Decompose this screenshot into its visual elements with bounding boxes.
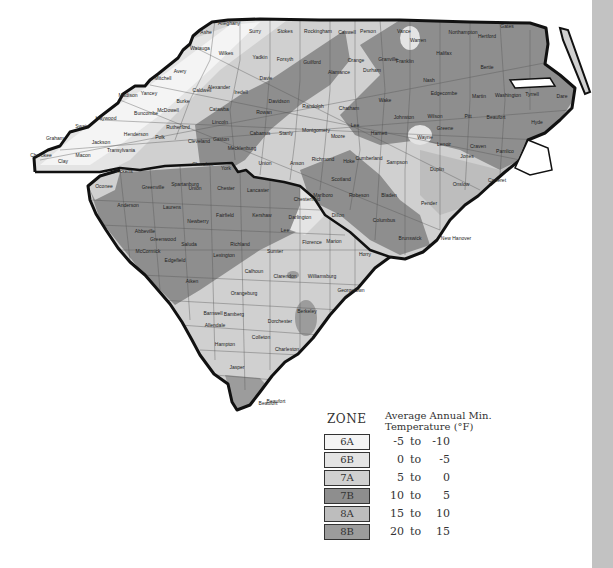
nc-county-label: Harnett xyxy=(371,130,388,136)
nc-county-label: Mecklenburg xyxy=(228,145,257,151)
nc-county-label: Durham xyxy=(363,67,381,73)
nc-county-label: Avery xyxy=(174,68,187,74)
nc-county-label: Yancey xyxy=(141,90,158,96)
nc-county-label: Buncombe xyxy=(134,110,158,116)
legend-range-to: to xyxy=(410,434,421,450)
legend-zone-swatch-8a: 8A xyxy=(324,506,370,522)
nc-county-label: Carteret xyxy=(488,177,507,183)
nc-county-label: Chatham xyxy=(339,105,359,111)
legend-temp-title-line2: Temperature (°F) xyxy=(385,421,492,432)
nc-county-label: Clay xyxy=(58,158,69,164)
nc-county-label: Wake xyxy=(379,97,392,103)
nc-county-label: Anson xyxy=(290,160,304,166)
nc-county-label: New Hanover xyxy=(441,235,472,241)
nc-county-label: Cumberland xyxy=(355,155,382,161)
sc-county-label: Colleton xyxy=(252,334,271,340)
nc-county-label: Craven xyxy=(470,143,486,149)
legend-temp-range: 5to0 xyxy=(382,470,472,486)
nc-county-label: Alamance xyxy=(328,69,350,75)
nc-county-label: Graham xyxy=(46,135,64,141)
legend-range-to: to xyxy=(410,452,421,468)
sc-county-label: Calhoun xyxy=(245,268,264,274)
nc-county-label: Polk xyxy=(155,134,165,140)
sc-county-label: Marion xyxy=(326,238,342,244)
legend-zone-title: ZONE xyxy=(327,412,366,426)
legend-range-low: 5 xyxy=(382,470,404,486)
nc-county-label: Stokes xyxy=(277,28,293,34)
nc-county-label: Duplin xyxy=(430,166,444,172)
nc-county-label: Robeson xyxy=(349,192,369,198)
legend-range-low: 15 xyxy=(382,506,404,522)
legend-range-low: -5 xyxy=(382,434,404,450)
legend: ZONE Average Annual Min. Temperature (°F… xyxy=(318,412,518,562)
sc-county-label: Edgefield xyxy=(165,257,186,263)
side-panel-strip xyxy=(592,0,613,568)
legend-temp-range: 10to5 xyxy=(382,488,472,504)
nc-county-label: Nash xyxy=(423,77,435,83)
sc-county-label: Dillon xyxy=(332,212,345,218)
nc-county-label: Sampson xyxy=(386,159,407,165)
sc-county-label: McCormick xyxy=(136,248,161,254)
legend-temp-range: 20to15 xyxy=(382,524,472,540)
nc-county-label: McDowell xyxy=(157,107,179,113)
nc-county-label: Gaston xyxy=(213,136,229,142)
nc-county-label: Halifax xyxy=(436,50,452,56)
nc-county-label: Martin xyxy=(472,93,486,99)
nc-county-label: Tyrrell xyxy=(525,91,539,97)
nc-county-label: Iredell xyxy=(234,89,248,95)
nc-county-label: Davie xyxy=(260,75,273,81)
nc-county-label: Gates xyxy=(500,23,514,29)
legend-range-to: to xyxy=(410,470,421,486)
sc-county-label: Laurens xyxy=(163,204,182,210)
legend-range-to: to xyxy=(410,524,421,540)
legend-range-high: -10 xyxy=(428,434,450,450)
nc-county-label: Person xyxy=(360,28,376,34)
nc-county-label: Guilford xyxy=(303,59,321,65)
nc-county-label: Vance xyxy=(397,28,411,34)
legend-range-to: to xyxy=(410,506,421,522)
nc-county-label: Pamlico xyxy=(496,148,514,154)
nc-county-label: Warren xyxy=(410,37,426,43)
legend-temp-title-line1: Average Annual Min. xyxy=(385,410,492,421)
legend-range-high: 5 xyxy=(428,488,450,504)
nc-county-label: Orange xyxy=(348,57,365,63)
sc-county-label: Williamsburg xyxy=(308,273,337,279)
nc-county-label: Moore xyxy=(331,133,345,139)
nc-county-label: Davidson xyxy=(269,98,290,104)
legend-range-low: 0 xyxy=(382,452,404,468)
nc-county-label: Hertford xyxy=(478,33,496,39)
nc-county-label: Lincoln xyxy=(212,119,228,125)
sc-county-label: Orangeburg xyxy=(231,290,258,296)
nc-county-label: Union xyxy=(258,160,271,166)
nc-county-label: Alleghany xyxy=(218,20,240,26)
sc-county-label: Anderson xyxy=(117,202,139,208)
nc-county-label: Richmond xyxy=(312,156,335,162)
legend-range-high: 0 xyxy=(428,470,450,486)
nc-county-label: Caswell xyxy=(338,29,356,35)
sc-county-label: Georgetown xyxy=(337,287,364,293)
legend-zone-swatch-7b: 7B xyxy=(324,488,370,504)
nc-county-label: Ashe xyxy=(200,29,212,35)
sc-county-label: Saluda xyxy=(181,241,197,247)
sc-county-label: Pickens xyxy=(115,168,133,174)
legend-range-to: to xyxy=(410,488,421,504)
sc-county-label: Cherokee xyxy=(192,161,214,167)
sc-county-label: Greenville xyxy=(142,184,165,190)
sc-county-label: Jasper xyxy=(229,364,244,370)
nc-county-label: Hoke xyxy=(343,158,355,164)
zone-8b-pocket-berkeley xyxy=(295,300,317,336)
nc-county-label: Brunswick xyxy=(399,235,422,241)
legend-zone-swatch-6b: 6B xyxy=(324,452,370,468)
nc-county-label: Henderson xyxy=(124,131,149,137)
nc-county-label: Randolph xyxy=(302,103,324,109)
nc-county-label: Montgomery xyxy=(302,127,330,133)
legend-range-high: 15 xyxy=(428,524,450,540)
sc-county-label: Sumter xyxy=(267,248,283,254)
legend-range-low: 10 xyxy=(382,488,404,504)
nc-county-label: Bertie xyxy=(480,64,493,70)
nc-county-label: Watauga xyxy=(190,45,210,51)
sc-county-label: Union xyxy=(188,185,201,191)
legend-range-high: 10 xyxy=(428,506,450,522)
sc-county-label: Barnwell xyxy=(203,310,222,316)
sc-county-label: Charleston xyxy=(275,346,299,352)
